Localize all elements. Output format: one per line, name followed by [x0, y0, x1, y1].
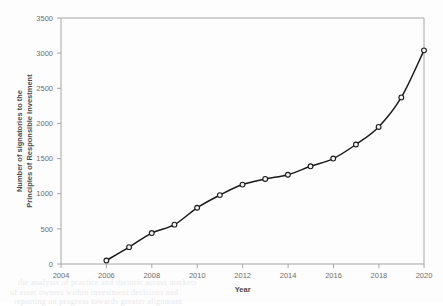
data-point-marker	[376, 125, 381, 130]
y-tick-label: 0	[49, 260, 53, 269]
y-axis-title-line2: Principles of Responsible Investment	[25, 74, 34, 208]
data-point-marker	[195, 205, 200, 210]
series-line	[106, 50, 424, 260]
y-tick-label: 3000	[36, 49, 53, 58]
data-series-signatories	[104, 48, 426, 263]
data-point-marker	[263, 177, 268, 182]
x-tick-label: 2004	[53, 271, 70, 280]
data-point-marker	[308, 164, 313, 169]
x-axis-title: Year	[235, 285, 251, 294]
x-tick-label: 2008	[143, 271, 160, 280]
x-tick-label: 2016	[325, 271, 342, 280]
data-point-marker	[217, 193, 222, 198]
x-tick-label: 2012	[234, 271, 251, 280]
x-tick-group: 2004 2006 2008 2010 2012 2014 2016 2018 …	[53, 264, 433, 280]
x-tick-label: 2006	[98, 271, 115, 280]
y-tick-label: 500	[40, 225, 53, 234]
data-point-marker	[399, 95, 404, 100]
data-point-marker	[354, 142, 359, 147]
x-tick-label: 2010	[189, 271, 206, 280]
data-point-marker	[285, 172, 290, 177]
y-tick-label: 1500	[36, 154, 53, 163]
y-axis-title-line1: Number of signatories to the	[15, 90, 24, 192]
y-tick-group: 0 500 1000 1500 2000 2500 3000 3500	[36, 14, 61, 269]
data-point-marker	[104, 258, 109, 263]
y-tick-label: 2000	[36, 119, 53, 128]
y-tick-label: 2500	[36, 84, 53, 93]
data-point-marker	[331, 156, 336, 161]
data-point-marker	[422, 48, 427, 53]
y-tick-label: 1000	[36, 189, 53, 198]
data-point-marker	[240, 182, 245, 187]
data-point-marker	[172, 222, 177, 227]
data-point-marker	[149, 231, 154, 236]
x-tick-label: 2014	[280, 271, 297, 280]
data-point-marker	[127, 245, 132, 250]
plot-axes	[61, 18, 424, 264]
y-tick-label: 3500	[36, 14, 53, 23]
x-tick-label: 2018	[371, 271, 388, 280]
x-tick-label: 2020	[416, 271, 433, 280]
